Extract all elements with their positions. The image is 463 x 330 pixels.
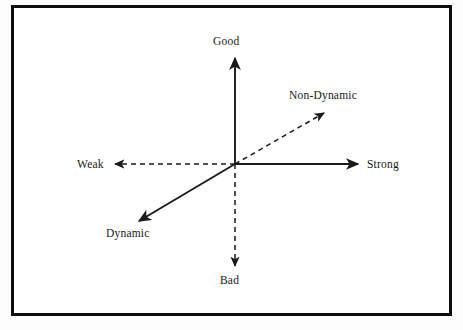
- axis-line-dynamic: [139, 164, 235, 221]
- axis-label-non-dynamic: Non-Dynamic: [289, 89, 357, 102]
- axis-label-dynamic: Dynamic: [106, 227, 150, 240]
- axis-label-strong: Strong: [367, 158, 399, 171]
- axis-label-bad: Bad: [220, 274, 239, 287]
- axis-line-non-dynamic: [235, 113, 324, 164]
- axis-label-weak: Weak: [77, 158, 104, 171]
- axis-label-good: Good: [213, 35, 239, 48]
- diagram-page: Good Bad Strong Weak Non-Dynamic Dynamic: [0, 0, 463, 330]
